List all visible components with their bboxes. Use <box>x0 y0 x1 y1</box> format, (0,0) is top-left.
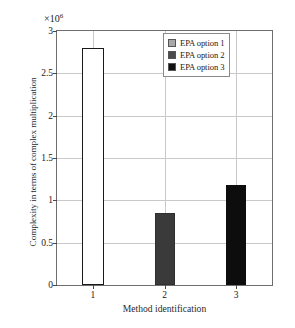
x-tick-mark-1 <box>93 285 94 289</box>
y-tick-mark <box>53 73 57 74</box>
legend-label: EPA option 1 <box>180 38 224 48</box>
bar-method-2 <box>155 213 175 285</box>
y-axis-multiplier: ×106 <box>44 12 63 24</box>
legend-item-2: EPA option 2 <box>168 49 224 61</box>
y-axis-title: Complexity in terms of complex multiplic… <box>28 37 38 287</box>
legend-label: EPA option 2 <box>180 50 224 60</box>
legend-item-3: EPA option 3 <box>168 61 224 73</box>
x-axis-title: Method identification <box>56 303 273 314</box>
legend-item-1: EPA option 1 <box>168 37 224 49</box>
y-axis-multiplier-base: ×10 <box>44 13 60 24</box>
legend-swatch-icon <box>168 39 176 47</box>
y-tick-label: 1 <box>48 195 53 205</box>
legend-label: EPA option 3 <box>180 62 224 72</box>
x-tick-mark-2 <box>165 285 166 289</box>
y-tick-mark <box>53 116 57 117</box>
y-tick-mark <box>53 243 57 244</box>
y-tick-label: 0.5 <box>41 238 53 248</box>
y-tick-label: 3 <box>48 26 53 36</box>
x-tick-label-2: 2 <box>162 290 167 300</box>
legend-swatch-icon <box>168 63 176 71</box>
x-tick-label-1: 1 <box>90 290 95 300</box>
y-axis-multiplier-exponent: 6 <box>60 12 64 20</box>
bar-method-3 <box>226 185 246 285</box>
bar-method-1 <box>82 48 104 285</box>
y-tick-mark <box>53 31 57 32</box>
y-tick-mark <box>53 200 57 201</box>
y-tick-label: 2.5 <box>41 68 53 78</box>
y-tick-mark <box>53 158 57 159</box>
legend-swatch-icon <box>168 51 176 59</box>
bar-chart-figure: Complexity in terms of complex multiplic… <box>0 0 295 328</box>
x-tick-mark-3 <box>236 285 237 289</box>
y-tick-label: 1.5 <box>41 153 53 163</box>
x-tick-label-3: 3 <box>234 290 239 300</box>
chart-legend: EPA option 1 EPA option 2 EPA option 3 <box>163 33 230 77</box>
y-tick-label: 0 <box>48 280 53 290</box>
y-tick-label: 2 <box>48 111 53 121</box>
y-tick-mark <box>53 285 57 286</box>
